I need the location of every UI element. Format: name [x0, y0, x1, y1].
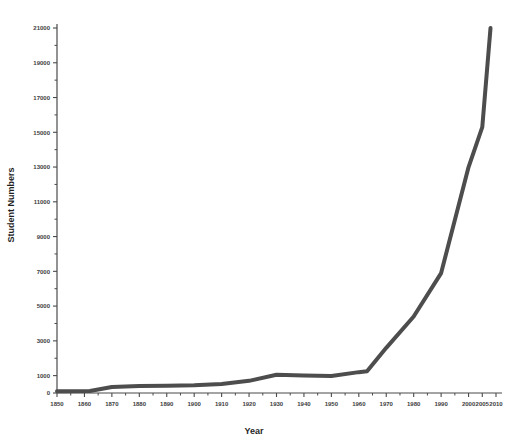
y-tick-label: 15000 [33, 130, 50, 136]
y-tick-label: 7000 [37, 269, 51, 275]
x-tick-label: 1990 [434, 401, 448, 407]
x-tick-label: 2010 [489, 401, 503, 407]
chart-canvas: 0100030005000700090001100013000150001700… [0, 0, 508, 441]
y-tick-label: 1000 [37, 373, 51, 379]
x-tick-label: 1950 [325, 401, 339, 407]
x-tick-label: 1920 [242, 401, 256, 407]
x-tick-label: 1970 [380, 401, 394, 407]
y-tick-label: 11000 [34, 199, 51, 205]
x-tick-label: 1930 [270, 401, 284, 407]
x-tick-label: 1880 [133, 401, 147, 407]
line-chart: 0100030005000700090001100013000150001700… [0, 0, 508, 441]
x-axis-title: Year [244, 426, 264, 436]
y-tick-label: 13000 [33, 164, 50, 170]
x-tick-label: 2000 [462, 401, 476, 407]
y-tick-label: 5000 [37, 303, 51, 309]
y-axis-title: Student Numbers [6, 167, 16, 242]
x-tick-label: 2005 [476, 401, 490, 407]
x-tick-label: 1890 [160, 401, 174, 407]
y-tick-label: 17000 [33, 95, 50, 101]
x-tick-label: 1850 [50, 401, 64, 407]
y-tick-label: 21000 [33, 25, 50, 31]
y-tick-label: 9000 [37, 234, 51, 240]
x-tick-label: 1870 [105, 401, 119, 407]
x-tick-label: 1900 [188, 401, 202, 407]
chart-background [0, 0, 508, 441]
x-tick-label: 1860 [78, 401, 92, 407]
x-axis-tick-labels: 1850186018701880189019001910192019301940… [50, 401, 503, 407]
x-tick-label: 1940 [297, 401, 311, 407]
x-tick-label: 1960 [352, 401, 366, 407]
y-tick-label: 19000 [33, 60, 50, 66]
x-tick-label: 1910 [215, 401, 229, 407]
y-tick-label: 3000 [37, 338, 51, 344]
x-tick-label: 1980 [407, 401, 421, 407]
